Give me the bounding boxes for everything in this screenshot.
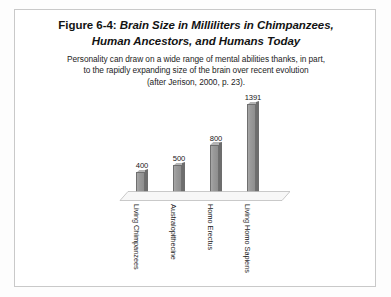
figure-title-line-2: Human Ancestors, and Humans Today [27, 34, 365, 50]
bar-value-label-0: 400 [127, 161, 157, 170]
figure-caption-line-1: Personality can draw on a wide range of … [27, 54, 365, 65]
bar-value-label-2: 800 [201, 134, 231, 143]
scanned-page: Figure 6-4: Brain Size in Milliliters in… [0, 0, 391, 297]
bar-living-homo-sapiens[interactable]: 1391 [247, 104, 259, 200]
category-label-3: Living Homo Sapiens [243, 204, 251, 286]
figure-title: Figure 6-4: Brain Size in Milliliters in… [27, 18, 365, 49]
page-frame: Figure 6-4: Brain Size in Milliliters in… [14, 9, 376, 287]
category-label-2: Homo Erectus [206, 204, 214, 286]
bar-chart: 400 500 [110, 104, 295, 287]
chart-plot-area: 400 500 [110, 104, 295, 200]
figure-caption-line-3: (after Jerison, 2000, p. 23). [27, 77, 365, 88]
bar-slot-0: 400 [128, 104, 164, 200]
bar-slot-2: 800 [202, 104, 238, 200]
figure-caption-line-2: to the rapidly expanding size of the bra… [27, 65, 365, 76]
figure-caption: Personality can draw on a wide range of … [27, 54, 365, 88]
bar-value-label-3: 1391 [238, 93, 268, 102]
category-label-0: Living Chimpanzees [132, 204, 140, 286]
bar-front-face-3 [247, 104, 256, 200]
bar-value-label-1: 500 [164, 154, 194, 163]
bar-slot-3: 1391 [239, 104, 275, 200]
figure-title-text-2: Human Ancestors, and Humans Today [92, 35, 300, 47]
figure-title-text-1: Brain Size in Milliliters in Chimpanzees… [120, 19, 334, 31]
figure-number: Figure 6-4: [58, 19, 116, 31]
category-label-1: Australopithecine [169, 204, 177, 286]
bar-slot-1: 500 [165, 104, 201, 200]
chart-floor-plane [114, 190, 290, 202]
category-axis-labels: Living Chimpanzees Australopithecine Hom… [110, 204, 295, 287]
figure-title-line-1: Figure 6-4: Brain Size in Milliliters in… [27, 18, 365, 34]
